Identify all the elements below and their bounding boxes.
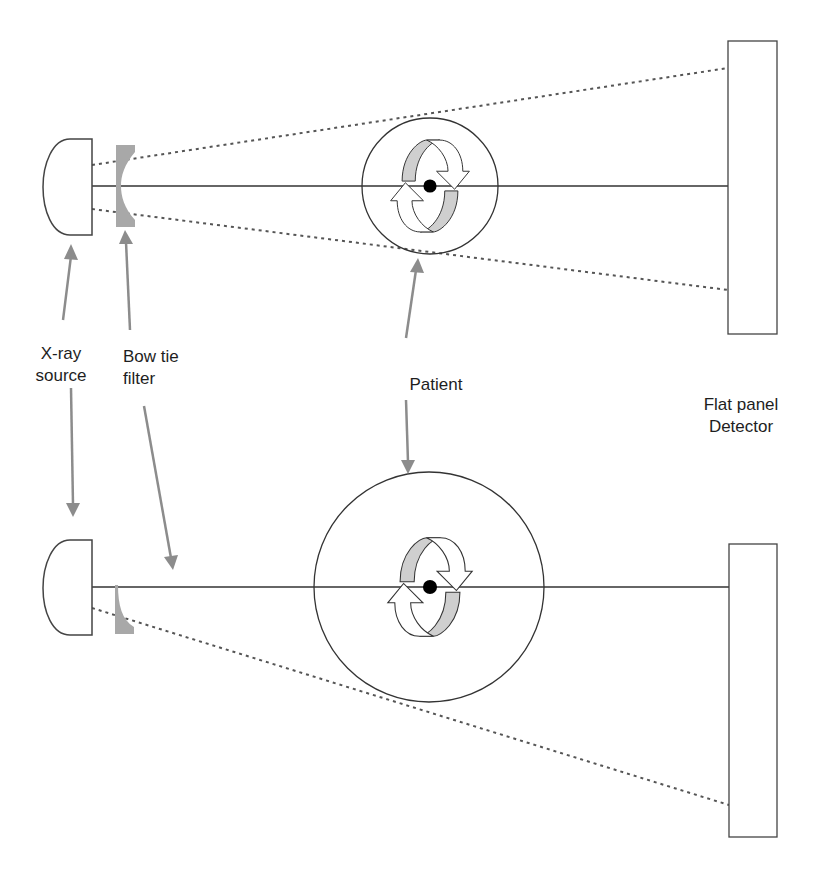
- arrow-xray-to-bottom-source: [71, 388, 73, 505]
- arrow-patient-to-top-circle: [406, 270, 416, 338]
- label-bow-tie-filter-line1: Bow tie: [123, 347, 179, 366]
- flat-panel-detector: [728, 41, 777, 334]
- arrow-xray-to-top-source: [63, 256, 71, 320]
- label-xray-source-line2: source: [35, 366, 86, 385]
- cbct-geometry-diagram: X-ray source Bow tie filter Patient Flat…: [0, 0, 820, 869]
- rotation-icon: [391, 140, 470, 232]
- label-detector-line2: Detector: [709, 417, 774, 436]
- arrow-head-icon: [66, 503, 80, 517]
- arrow-head-icon: [401, 460, 415, 474]
- arrow-head-icon: [64, 244, 78, 260]
- arrow-patient-to-bottom-circle: [406, 400, 408, 462]
- flat-panel-detector: [729, 544, 777, 837]
- label-xray-source-line1: X-ray: [41, 344, 82, 363]
- label-patient: Patient: [410, 375, 463, 394]
- top-configuration: [43, 41, 777, 334]
- pointer-arrows: [63, 230, 424, 570]
- beam-edge-upper: [92, 68, 728, 165]
- xray-source-icon: [43, 540, 92, 635]
- rotation-icon: [388, 538, 472, 637]
- label-detector-line1: Flat panel: [704, 395, 779, 414]
- arrow-head-icon: [119, 230, 133, 244]
- bottom-configuration: [43, 472, 777, 837]
- arrow-head-icon: [410, 258, 424, 273]
- arrow-head-icon: [164, 555, 178, 570]
- label-bow-tie-filter-line2: filter: [123, 369, 155, 388]
- arrow-filter-to-bottom-filter: [144, 406, 171, 558]
- arrow-filter-to-top-filter: [126, 242, 130, 330]
- beam-edge-lower: [92, 608, 729, 805]
- xray-source-icon: [43, 139, 92, 235]
- half-bow-tie-filter-icon: [115, 585, 134, 634]
